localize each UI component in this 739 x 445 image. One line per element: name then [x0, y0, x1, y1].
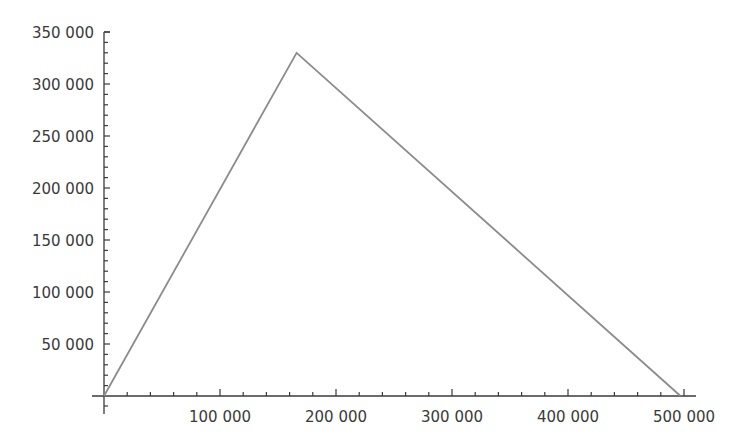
- axes: [92, 32, 696, 414]
- y-tick-label: 300 000: [32, 76, 94, 94]
- y-tick-label: 100 000: [32, 284, 94, 302]
- x-tick-label: 500 000: [653, 408, 715, 426]
- tick-labels: 50 000100 000150 000200 000250 000300 00…: [32, 24, 715, 426]
- series-line: [104, 53, 681, 396]
- chart: 50 000100 000150 000200 000250 000300 00…: [0, 0, 739, 445]
- y-tick-label: 150 000: [32, 232, 94, 250]
- x-tick-label: 300 000: [421, 408, 483, 426]
- x-tick-label: 100 000: [189, 408, 251, 426]
- y-tick-label: 350 000: [32, 24, 94, 42]
- x-tick-label: 200 000: [305, 408, 367, 426]
- y-tick-label: 250 000: [32, 128, 94, 146]
- y-tick-label: 200 000: [32, 180, 94, 198]
- ticks: [104, 32, 684, 396]
- y-tick-label: 50 000: [42, 336, 95, 354]
- x-tick-label: 400 000: [537, 408, 599, 426]
- data-series: [104, 53, 681, 396]
